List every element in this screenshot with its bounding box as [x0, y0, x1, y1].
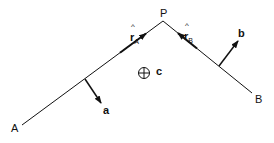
into-page-icon [139, 68, 150, 79]
unit-vector-ra-label: ^ rA [130, 28, 139, 44]
vector-diagram [0, 0, 274, 143]
hat-symbol: ^ [185, 22, 189, 30]
vector-a-label: a [103, 105, 109, 116]
unit-vector-rb-label: ^ rB [184, 27, 193, 43]
point-b-label: B [255, 94, 262, 105]
hat-symbol: ^ [131, 23, 135, 31]
center-c-label: c [156, 66, 162, 77]
vector-b-label: b [238, 28, 245, 39]
unit-vector-subscript: B [188, 37, 193, 44]
point-p-label: P [160, 8, 167, 19]
vector-b-arrow [219, 41, 238, 66]
unit-vector-subscript: A [134, 38, 139, 45]
point-a-label: A [11, 123, 18, 134]
vector-a-arrow [85, 79, 101, 103]
